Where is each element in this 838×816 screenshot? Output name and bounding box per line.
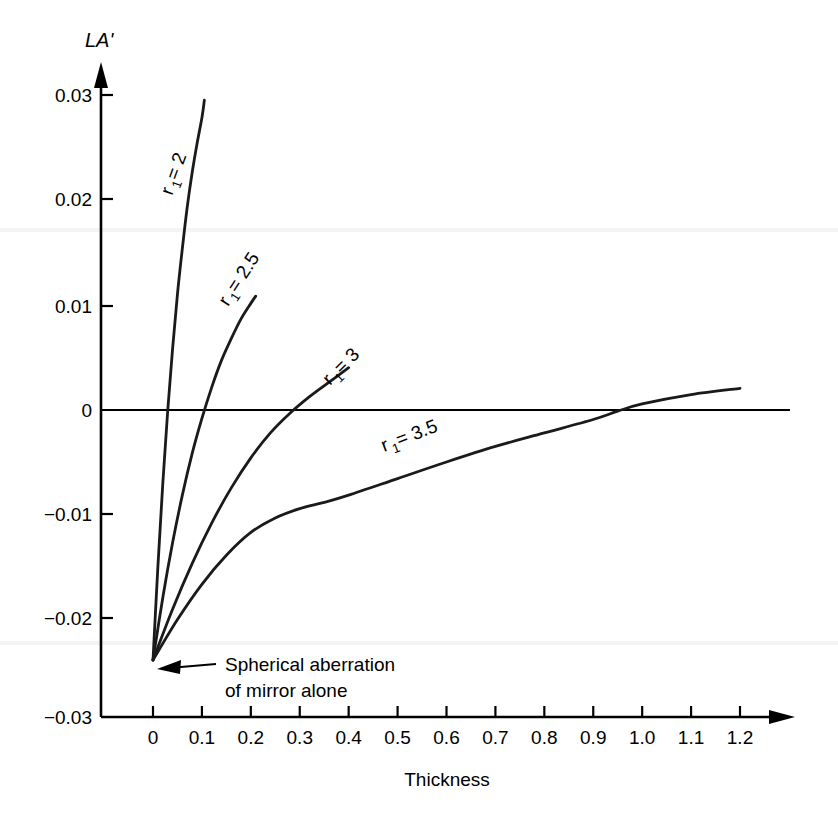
x-tick-label-0.9: 0.9	[580, 727, 606, 748]
axes-group	[94, 62, 795, 724]
curve-label-r1-3.5-rest: = 3.5	[393, 415, 440, 450]
x-tick-label-0.5: 0.5	[384, 727, 410, 748]
curve-label-r1-2-rest: = 2	[161, 150, 190, 183]
curve-r1-3	[153, 368, 349, 660]
x-tick-label-0.2: 0.2	[238, 727, 264, 748]
y-tick-label-neg0.03: −0.03	[44, 707, 92, 728]
x-tick-label-0: 0	[148, 727, 159, 748]
x-axis-title: Thickness	[404, 769, 490, 790]
x-tick-label-0.6: 0.6	[433, 727, 459, 748]
y-axis-ticks	[101, 95, 113, 618]
y-axis-title: LA'	[85, 29, 114, 51]
spherical-aberration-chart: 0.03 0.02 0.01 0 −0.01 −0.02 −0.03 LA' 0…	[0, 0, 838, 816]
data-curves-group	[153, 100, 740, 660]
y-tick-label-neg0.02: −0.02	[44, 608, 92, 629]
x-axis-ticks	[153, 706, 740, 717]
x-tick-label-0.1: 0.1	[189, 727, 215, 748]
x-axis-arrowhead	[769, 710, 795, 724]
curve-r1-3-5	[153, 388, 740, 660]
x-tick-label-1.1: 1.1	[678, 727, 704, 748]
y-axis-arrowhead	[94, 62, 108, 88]
x-tick-label-0.4: 0.4	[335, 727, 362, 748]
annotation-line-2: of mirror alone	[225, 680, 348, 701]
y-tick-label-0.02: 0.02	[55, 189, 92, 210]
curve-label-r1-2.5: r 1 = 2.5	[214, 248, 267, 311]
annotation-line-1: Spherical aberration	[225, 654, 395, 675]
x-tick-label-1.2: 1.2	[727, 727, 753, 748]
curve-r1-2-5	[153, 296, 256, 660]
scan-band-top	[0, 228, 838, 232]
y-tick-label-0.03: 0.03	[55, 85, 92, 106]
scan-band-bottom	[0, 641, 838, 645]
y-tick-label-0.01: 0.01	[55, 296, 92, 317]
y-axis-tick-labels: 0.03 0.02 0.01 0 −0.01 −0.02 −0.03	[44, 85, 92, 728]
curve-label-r1-3.5: r 1 = 3.5	[378, 415, 442, 459]
x-tick-label-0.8: 0.8	[531, 727, 557, 748]
x-tick-label-0.3: 0.3	[287, 727, 313, 748]
y-tick-label-neg0.01: −0.01	[44, 504, 92, 525]
x-axis-tick-labels: 00.10.20.30.40.50.60.70.80.91.01.11.2	[148, 727, 754, 748]
figure-container: 0.03 0.02 0.01 0 −0.01 −0.02 −0.03 LA' 0…	[0, 0, 838, 816]
y-tick-label-0: 0	[81, 400, 92, 421]
curve-label-r1-2.5-rest: = 2.5	[222, 248, 263, 295]
spherical-aberration-annotation: Spherical aberration of mirror alone	[157, 654, 395, 701]
x-tick-label-1.0: 1.0	[629, 727, 655, 748]
annotation-arrow-head	[157, 660, 181, 674]
x-tick-label-0.7: 0.7	[482, 727, 508, 748]
